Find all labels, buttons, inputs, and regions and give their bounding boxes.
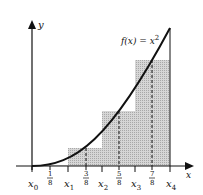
riemann-bars: [32, 60, 170, 166]
svg-text:8: 8: [117, 179, 121, 187]
function-label: f(x) = x2: [120, 34, 159, 46]
y-axis-label: y: [37, 19, 44, 30]
y-axis-arrow-icon: [28, 20, 36, 29]
svg-text:8: 8: [150, 179, 154, 187]
svg-text:8: 8: [48, 179, 52, 187]
svg-text:1: 1: [48, 170, 52, 178]
riemann-sum-diagram: y x f(x) = x2 x0 x1 x2 x3 x4 1 8 3 8 5 8…: [0, 0, 203, 195]
svg-text:5: 5: [117, 170, 121, 178]
svg-text:x4: x4: [166, 178, 177, 192]
bar-2: [68, 148, 102, 166]
x-axis-label: x: [186, 170, 191, 180]
svg-text:x2: x2: [98, 178, 108, 192]
svg-text:8: 8: [84, 179, 88, 187]
svg-text:3: 3: [84, 170, 88, 178]
svg-text:x1: x1: [64, 178, 74, 192]
x-axis-arrow-icon: [185, 162, 194, 170]
svg-text:x3: x3: [131, 178, 141, 192]
svg-text:7: 7: [150, 170, 154, 178]
svg-text:x0: x0: [28, 178, 38, 192]
